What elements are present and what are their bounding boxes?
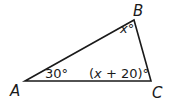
angle-c-label: (x + 20)° — [89, 66, 149, 81]
vertex-label-b: B — [133, 2, 143, 20]
angle-c-variable: x — [93, 66, 102, 81]
triangle-diagram: A B C 30° x° (x + 20)° — [0, 0, 172, 102]
angle-b-label: x° — [119, 21, 134, 36]
angle-b-variable: x — [119, 21, 128, 36]
angle-b-degree: ° — [128, 21, 135, 36]
angle-a-label: 30° — [45, 66, 68, 81]
angle-c-rest: + 20)° — [102, 66, 149, 81]
vertex-label-a: A — [9, 82, 20, 100]
vertex-label-c: C — [152, 84, 163, 102]
